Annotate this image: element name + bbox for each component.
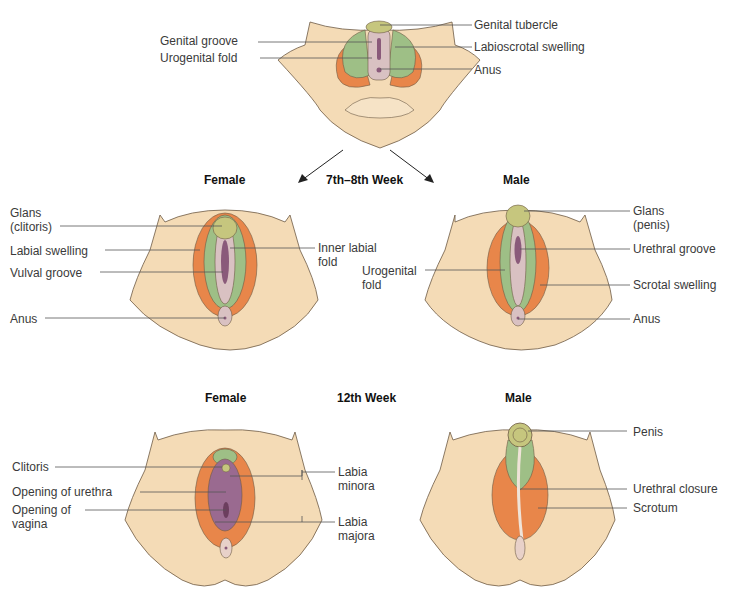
label-labial-swelling: Labial swelling: [10, 244, 88, 258]
label-scrotal-swelling: Scrotal swelling: [633, 278, 716, 292]
label-labia-majora-line2: majora: [338, 529, 375, 543]
label-genital-tubercle: Genital tubercle: [474, 18, 558, 32]
label-glans-clitoris-line1: Glans: [10, 206, 41, 220]
label-anus-indifferent: Anus: [474, 63, 501, 77]
label-glans-penis-line2: (penis): [633, 218, 670, 232]
label-clitoris: Clitoris: [12, 460, 49, 474]
female-7-8-week-figure: [45, 210, 318, 350]
label-opening-urethra: Opening of urethra: [12, 485, 112, 499]
label-anus-female: Anus: [10, 312, 37, 326]
label-glans-clitoris-line2: (clitoris): [10, 220, 52, 234]
label-labia-majora-line1: Labia: [338, 515, 367, 529]
male-12-header: Male: [505, 391, 532, 405]
diagram-canvas: [0, 0, 731, 592]
male-12-week-figure: [420, 423, 627, 586]
label-urogenital-fold-line1: Urogenital: [362, 264, 417, 278]
female-12-header: Female: [205, 391, 246, 405]
label-urogenital-fold: Urogenital fold: [160, 51, 237, 65]
label-urethral-closure: Urethral closure: [633, 482, 718, 496]
label-inner-labial-fold-line1: Inner labial: [318, 241, 377, 255]
stage-12-week-header: 12th Week: [337, 391, 396, 405]
stage-7-8-week-header: 7th–8th Week: [326, 173, 403, 187]
label-labioscrotal-swelling: Labioscrotal swelling: [474, 40, 585, 54]
label-inner-labial-fold-line2: fold: [318, 255, 337, 269]
label-anus-male: Anus: [633, 312, 660, 326]
label-labia-minora-line2: minora: [338, 479, 375, 493]
label-opening-vagina-line1: Opening of: [12, 503, 71, 517]
male-7-8-week-figure: [425, 205, 630, 350]
label-glans-penis-line1: Glans: [633, 204, 664, 218]
male-7-8-header: Male: [503, 173, 530, 187]
label-urethral-groove: Urethral groove: [633, 242, 716, 256]
label-vulval-groove: Vulval groove: [10, 266, 82, 280]
female-12-week-figure: [55, 430, 335, 586]
indifferent-stage-figure: [258, 21, 480, 148]
label-scrotum: Scrotum: [633, 501, 678, 515]
label-urogenital-fold-line2: fold: [362, 278, 381, 292]
label-penis: Penis: [633, 425, 663, 439]
label-labia-minora-line1: Labia: [338, 465, 367, 479]
label-genital-groove: Genital groove: [160, 34, 238, 48]
label-opening-vagina-line2: vagina: [12, 517, 47, 531]
female-7-8-header: Female: [204, 173, 245, 187]
